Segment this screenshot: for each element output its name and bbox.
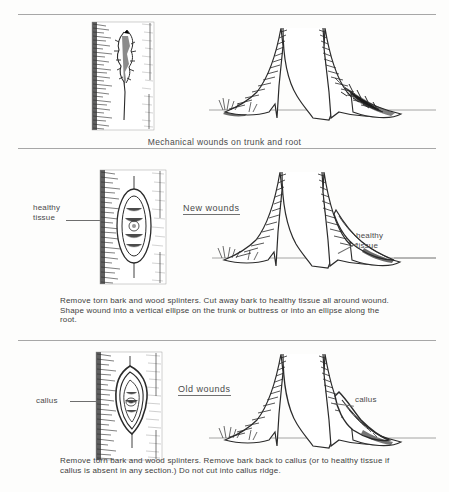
label-callus-left: callus bbox=[36, 396, 58, 406]
label-healthy-tissue-left: healthy tissue bbox=[33, 203, 60, 222]
trunk-wound-callus-illustration bbox=[90, 350, 174, 462]
figure-page: Mechanical wounds on trunk and root New … bbox=[0, 0, 449, 492]
trunk-wound-ragged-illustration bbox=[86, 20, 166, 132]
label-callus-right: callus bbox=[355, 395, 377, 405]
root-buttress-damaged-illustration bbox=[205, 26, 440, 138]
root-buttress-callus-illustration bbox=[205, 352, 440, 462]
root-buttress-cut-illustration bbox=[208, 170, 440, 288]
label-healthy-tissue-right: healthy tissue bbox=[356, 231, 383, 250]
panel-old-wounds: Old wounds callus bbox=[0, 340, 449, 492]
caption-old-wounds: Remove torn bark and wood splinters. Rem… bbox=[60, 456, 392, 475]
caption-new-wounds: Remove torn bark and wood splinters. Cut… bbox=[60, 296, 390, 325]
panel-mechanical-wounds: Mechanical wounds on trunk and root bbox=[0, 14, 449, 148]
trunk-wound-ellipse-illustration bbox=[94, 168, 178, 286]
caption-mechanical-wounds: Mechanical wounds on trunk and root bbox=[0, 137, 449, 147]
panel-new-wounds: New wounds healthy tissue bbox=[0, 148, 449, 340]
